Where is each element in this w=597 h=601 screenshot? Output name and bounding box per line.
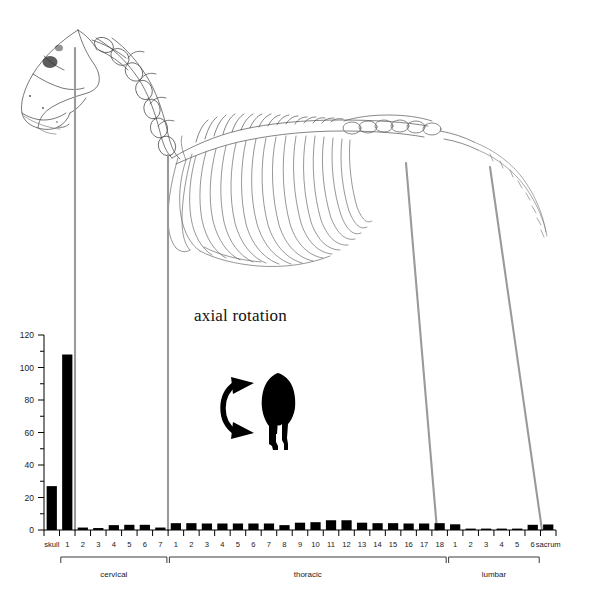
x-axis-tick-label: 8 [282,540,286,549]
x-axis-tick-label: sacrum [536,540,561,549]
x-axis-tick-label: 6 [143,540,147,549]
bar[interactable] [233,524,243,531]
bar[interactable] [171,523,181,530]
x-axis-tick-label: 5 [236,540,240,549]
figure-canvas: axial rotation 020406080100120skull12345… [0,0,597,601]
bar[interactable] [528,525,538,530]
x-axis-tick-label: 11 [327,540,335,549]
bar[interactable] [543,524,553,530]
y-axis-tick-label: 20 [25,493,35,503]
x-axis-tick-label: 2 [469,540,473,549]
x-axis-tick-label: 3 [205,540,209,549]
x-axis-tick-label: skull [44,540,60,549]
x-axis-tick-label: 3 [484,540,488,549]
x-axis-tick-label: 10 [311,540,319,549]
bar[interactable] [326,520,336,530]
x-axis-tick-label: 15 [389,540,397,549]
bar[interactable] [202,524,212,531]
bar[interactable] [295,523,305,530]
bar[interactable] [341,520,351,530]
y-axis-tick-label: 100 [20,363,34,373]
x-axis-tick-label: 5 [127,540,131,549]
x-axis-tick-label: 2 [81,540,85,549]
x-axis-tick-label: 12 [342,540,350,549]
y-axis-tick-label: 0 [29,525,34,535]
bar[interactable] [140,525,150,530]
x-axis-tick-label: 5 [515,540,519,549]
x-axis-tick-label: 7 [267,540,271,549]
x-axis-tick-label: 7 [158,540,162,549]
bar[interactable] [248,524,258,531]
group-bracket [61,557,167,563]
x-axis-tick-label: 4 [112,540,116,549]
bar[interactable] [279,525,289,530]
group-bracket [449,557,540,563]
x-axis-tick-label: 3 [96,540,100,549]
group-label: thoracic [294,570,322,579]
y-axis-tick-label: 120 [20,330,34,340]
bar[interactable] [435,523,445,530]
x-axis-tick-label: 16 [404,540,412,549]
y-axis-tick-label: 40 [25,460,35,470]
y-axis-tick-label: 60 [25,428,35,438]
bar[interactable] [47,486,57,530]
bar[interactable] [264,524,274,531]
x-axis-tick-label: 14 [373,540,381,549]
x-axis-tick-label: 4 [220,540,224,549]
bar[interactable] [186,523,196,530]
bar[interactable] [403,524,413,531]
x-axis-tick-label: 1 [65,540,69,549]
group-label: cervical [100,570,127,579]
x-axis-tick-label: 6 [251,540,255,549]
x-axis-tick-label: 17 [420,540,428,549]
axial-rotation-bar-chart: 020406080100120skull12345671234567891011… [0,0,597,601]
group-bracket [169,557,446,563]
x-axis-tick-label: 13 [358,540,366,549]
bar[interactable] [62,355,72,531]
x-axis-tick-label: 1 [174,540,178,549]
x-axis-tick-label: 18 [435,540,443,549]
bar[interactable] [388,523,398,530]
bar[interactable] [419,524,429,531]
bar[interactable] [124,525,134,530]
x-axis-tick-label: 2 [189,540,193,549]
x-axis-tick-label: 1 [453,540,457,549]
bar[interactable] [372,523,382,530]
bar[interactable] [109,525,119,530]
x-axis-tick-label: 6 [531,540,535,549]
y-axis-tick-label: 80 [25,395,35,405]
group-label: lumbar [482,570,507,579]
bar[interactable] [310,522,320,530]
x-axis-tick-label: 4 [500,540,504,549]
x-axis-tick-label: 9 [298,540,302,549]
bar[interactable] [450,524,460,530]
bar[interactable] [217,524,227,531]
bar[interactable] [357,523,367,530]
